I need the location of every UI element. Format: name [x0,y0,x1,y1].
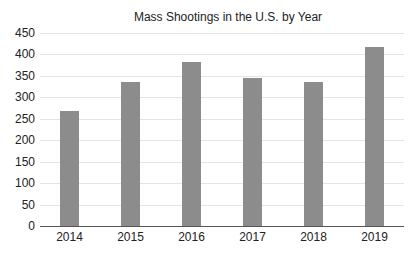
gridline [40,119,404,120]
bar-2015 [121,82,140,226]
y-tick-label: 100 [0,176,35,190]
bar-2016 [182,62,201,226]
gridline [40,54,404,55]
bar-2019 [365,47,384,226]
gridline [40,205,404,206]
bar-2018 [304,82,323,226]
x-tick-label: 2018 [289,230,339,244]
x-tick-label: 2017 [228,230,278,244]
y-tick-label: 0 [0,219,35,233]
y-tick-label: 400 [0,47,35,61]
y-tick-label: 150 [0,155,35,169]
x-tick-label: 2014 [45,230,95,244]
bar-2017 [243,78,262,226]
y-tick-label: 200 [0,133,35,147]
y-tick-label: 250 [0,112,35,126]
gridline [40,33,404,34]
gridline [40,140,404,141]
x-tick-label: 2015 [106,230,156,244]
y-tick-label: 450 [0,26,35,40]
gridline [40,162,404,163]
gridline [40,183,404,184]
x-tick-label: 2016 [167,230,217,244]
y-tick-label: 300 [0,90,35,104]
y-tick-label: 50 [0,198,35,212]
gridline [40,76,404,77]
x-tick-label: 2019 [350,230,400,244]
gridline [40,97,404,98]
chart-title: Mass Shootings in the U.S. by Year [0,10,416,24]
y-tick-label: 350 [0,69,35,83]
bar-2014 [60,111,79,226]
x-axis-line [40,226,404,227]
bar-chart: Mass Shootings in the U.S. by Year 05010… [0,0,416,258]
